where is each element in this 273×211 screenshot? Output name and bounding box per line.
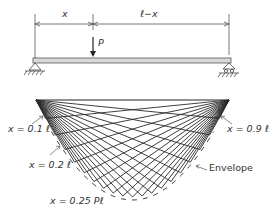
moment-lines [36,100,229,197]
beam [33,58,231,63]
pin-support-icon [24,63,45,75]
label-x-0.1: x = 0.1 ℓ [8,124,50,134]
dimension-lines [35,14,229,58]
label-x-0.9: x = 0.9 ℓ [227,124,269,134]
dim-label-l-minus-x: ℓ−x [140,9,158,19]
label-x-0.2: x = 0.2 ℓ [29,160,71,170]
label-max-moment: x = 0.25 Pℓ [50,196,103,206]
influence-moment-diagram [0,0,273,211]
roller-support-icon [218,63,239,77]
load-label-p: P [98,38,104,48]
envelope-curve [51,132,213,200]
load-arrow-icon [90,37,96,57]
label-envelope: Envelope [209,163,253,173]
dim-label-x: x [62,9,68,19]
